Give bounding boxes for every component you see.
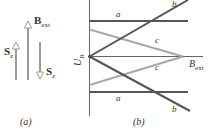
label-c-upper: c xyxy=(155,35,159,45)
x-axis-label: Bext xyxy=(189,58,204,72)
panel-b xyxy=(88,0,203,116)
caption-b: (b) xyxy=(133,116,145,127)
y-axis-label: UB xyxy=(72,54,86,66)
figure xyxy=(0,0,217,133)
label-c-lower: c xyxy=(155,62,159,72)
label-a-lower: a xyxy=(116,93,121,103)
panel-a xyxy=(13,21,44,80)
spin-up-label: Sz xyxy=(4,45,13,60)
label-b-lower: b xyxy=(172,104,177,114)
caption-a: (a) xyxy=(20,116,32,127)
line-c-upper xyxy=(90,30,184,57)
spin-up-arrow xyxy=(13,42,20,80)
spin-down-arrow xyxy=(37,42,44,79)
bext-arrow xyxy=(25,21,32,80)
spin-down-label: Sz xyxy=(46,65,55,80)
label-a-upper: a xyxy=(116,9,121,19)
bext-label: Bext xyxy=(34,14,50,29)
label-b-upper: b xyxy=(172,0,177,9)
line-b-lower xyxy=(90,57,191,112)
